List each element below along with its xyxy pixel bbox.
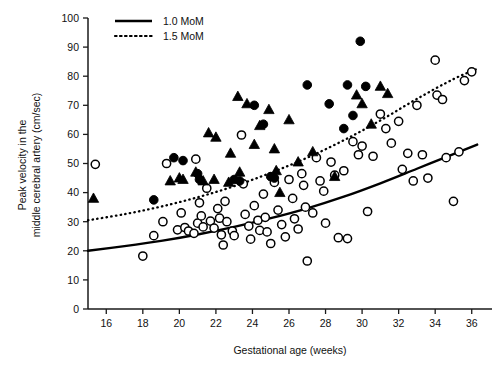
point-open-circle [321,219,329,227]
x-tick-label: 36 [466,317,478,329]
point-open-circle [376,110,384,118]
point-open-circle [418,151,426,159]
scatter-plot-svg: 0102030405060708090100 16182022242628303… [0,0,502,373]
x-tick-label: 16 [100,317,112,329]
point-open-circle [210,224,218,232]
point-open-circle [404,149,412,157]
y-tick-label: 80 [67,70,79,82]
point-filled-circle [170,153,179,162]
point-open-circle [289,194,297,202]
point-open-circle [278,221,286,229]
y-tick-label: 60 [67,128,79,140]
x-tick-label: 24 [247,317,259,329]
point-open-circle [409,177,417,185]
legend-label-2: 1.5 MoM [163,30,204,42]
y-axis-title-line1: Peak velocity in the [16,120,28,211]
point-open-circle [343,234,351,242]
point-open-circle [431,56,439,64]
point-open-circle [468,68,476,76]
legend-label-1: 1.0 MoM [163,15,204,27]
y-tick-label: 10 [67,274,79,286]
point-filled-circle [303,81,312,90]
point-open-circle [301,203,309,211]
point-open-circle [349,138,357,146]
x-tick-label: 28 [320,317,332,329]
y-tick-label: 30 [67,216,79,228]
point-open-circle [162,159,170,167]
x-tick-label: 30 [356,317,368,329]
point-filled-circle [325,100,334,109]
point-open-circle [241,210,249,218]
point-open-circle [217,231,225,239]
point-open-circle [274,206,282,214]
chart-figure: 0102030405060708090100 16182022242628303… [0,0,502,373]
point-open-circle [300,181,308,189]
point-filled-circle [349,111,358,120]
point-open-circle [387,139,395,147]
point-open-circle [237,131,245,139]
point-open-circle [230,232,238,240]
point-open-circle [203,184,211,192]
point-open-circle [358,142,366,150]
x-tick-label: 18 [137,317,149,329]
point-open-circle [294,225,302,233]
point-open-circle [195,199,203,207]
point-open-circle [290,215,298,223]
point-open-circle [219,241,227,249]
x-tick-label: 22 [210,317,222,329]
point-open-circle [197,212,205,220]
point-open-circle [261,213,269,221]
point-filled-circle [149,196,158,205]
point-open-circle [139,252,147,260]
point-open-circle [221,197,229,205]
y-tick-label: 70 [67,99,79,111]
point-open-circle [320,187,328,195]
point-filled-circle [235,177,244,186]
point-open-circle [449,197,457,205]
point-open-circle [199,223,207,231]
point-open-circle [442,154,450,162]
y-tick-label: 0 [73,303,79,315]
point-open-circle [247,235,255,243]
x-tick-label: 32 [393,317,405,329]
point-open-circle [316,177,324,185]
point-open-circle [369,152,377,160]
point-open-circle [159,218,167,226]
point-open-circle [190,229,198,237]
point-open-circle [340,167,348,175]
point-open-circle [395,117,403,125]
point-open-circle [460,76,468,84]
point-filled-circle [356,37,365,46]
x-tick-label: 20 [174,317,186,329]
point-open-circle [455,148,463,156]
point-open-circle [223,218,231,226]
x-axis-title-text: Gestational age (weeks) [233,344,346,356]
point-open-circle [150,232,158,240]
y-tick-label: 100 [61,12,79,24]
point-open-circle [398,165,406,173]
x-tick-label: 34 [429,317,441,329]
point-open-circle [363,207,371,215]
y-tick-label: 90 [67,41,79,53]
x-axis-title: Gestational age (weeks) [233,344,346,356]
point-open-circle [334,234,342,242]
point-open-circle [281,233,289,241]
point-filled-circle [361,82,370,91]
y-tick-label: 40 [67,186,79,198]
point-open-circle [382,124,390,132]
point-open-circle [91,160,99,168]
point-open-circle [298,170,306,178]
point-open-circle [354,151,362,159]
point-open-circle [177,209,185,217]
point-open-circle [214,205,222,213]
point-filled-circle [250,101,259,110]
point-open-circle [259,190,267,198]
point-open-circle [327,158,335,166]
point-open-circle [245,222,253,230]
point-filled-circle [179,156,188,165]
y-tick-label: 50 [67,157,79,169]
point-open-circle [192,155,200,163]
point-open-circle [250,202,258,210]
point-open-circle [438,95,446,103]
point-open-circle [424,174,432,182]
